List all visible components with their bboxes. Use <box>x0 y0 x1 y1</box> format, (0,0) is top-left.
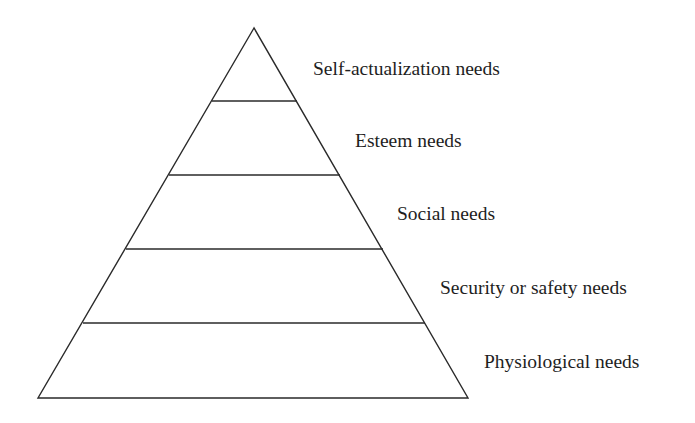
level-label-esteem: Esteem needs <box>355 131 462 151</box>
level-label-self-actualization: Self-actualization needs <box>313 59 500 79</box>
maslow-pyramid-diagram: Self-actualization needs Esteem needs So… <box>0 0 695 423</box>
level-label-social: Social needs <box>397 204 495 224</box>
level-label-security: Security or safety needs <box>440 278 627 298</box>
level-label-physiological: Physiological needs <box>484 352 639 372</box>
